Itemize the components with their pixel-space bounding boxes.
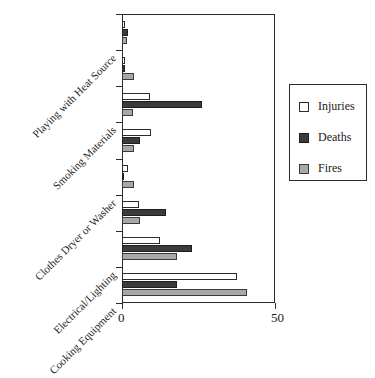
legend-label: Injuries [318,99,355,114]
bar-deaths [122,281,177,288]
legend-swatch-deaths-icon [299,133,309,143]
bar-deaths [122,29,128,36]
bar-fires [122,109,133,116]
bar-injuries [122,129,151,136]
bars-layer [122,14,275,303]
bar-deaths [122,245,192,252]
legend-item-deaths[interactable]: Deaths [299,130,351,145]
legend-swatch-fires-icon [299,164,309,174]
bar-deaths [122,101,202,108]
bar-injuries [122,273,237,280]
bar-injuries [122,201,139,208]
x-axis-tick [122,303,123,309]
y-axis-tick [116,122,122,123]
y-axis-tick [116,159,122,160]
bar-fires [122,289,247,296]
bar-injuries [122,21,125,28]
y-axis-tick [116,86,122,87]
y-axis-tick [116,50,122,51]
bar-injuries [122,237,160,244]
x-axis-tick-label: 0 [118,310,125,326]
legend-item-fires[interactable]: Fires [299,161,342,176]
bar-group [122,50,275,86]
x-axis-tick-label: 50 [271,310,284,326]
legend-item-injuries[interactable]: Injuries [299,99,355,114]
bar-fires [122,145,134,152]
legend-label: Fires [318,161,342,176]
bar-group [122,86,275,122]
bar-deaths [122,209,166,216]
y-axis-tick [116,14,122,15]
bar-fires [122,217,140,224]
bar-fires [122,181,134,188]
bar-group [122,231,275,267]
bar-fires [122,73,134,80]
y-axis-tick [116,231,122,232]
chart-legend: InjuriesDeathsFires [289,84,367,181]
y-axis-tick [116,195,122,196]
bar-injuries [122,165,128,172]
bar-injuries [122,57,125,64]
bar-group [122,195,275,231]
bar-group [122,122,275,158]
bar-deaths [122,173,124,180]
bar-injuries [122,93,150,100]
legend-label: Deaths [318,130,351,145]
bar-deaths [122,65,125,72]
legend-swatch-injuries-icon [299,102,309,112]
bar-deaths [122,137,140,144]
x-axis-tick [275,303,276,309]
bar-group [122,14,275,50]
bar-group [122,159,275,195]
bar-group [122,267,275,303]
bar-fires [122,253,177,260]
bar-fires [122,37,127,44]
y-axis-tick [116,267,122,268]
